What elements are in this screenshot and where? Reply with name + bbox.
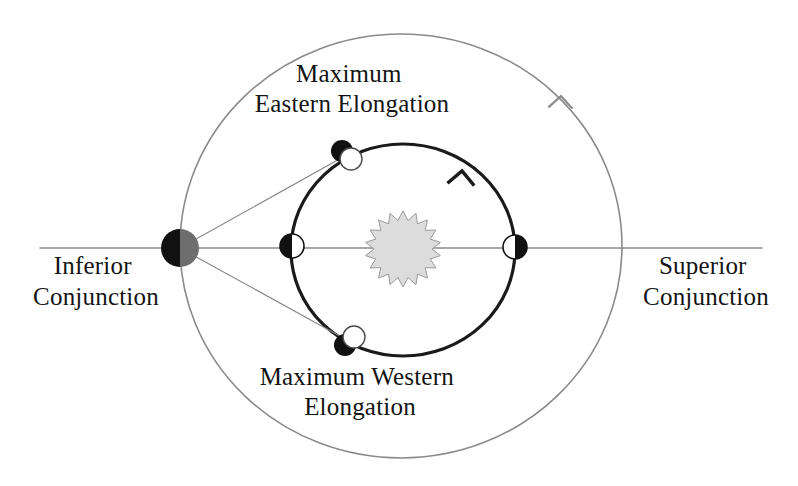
label-mwe-line2: Elongation [304,393,416,420]
astronomy-diagram: Maximum Eastern Elongation Maximum Weste… [0,0,798,486]
label-sc-line1: Superior [659,252,747,279]
label-mee-line1: Maximum [296,60,402,87]
label-mee-line2: Eastern Elongation [255,90,450,117]
label-ic-line2: Conjunction [33,283,159,310]
label-mwe-line1: Maximum Western [260,363,455,390]
label-sc-line2: Conjunction [643,283,769,310]
diagram-canvas: Maximum Eastern Elongation Maximum Weste… [0,0,798,486]
label-ic-line1: Inferior [54,252,132,279]
